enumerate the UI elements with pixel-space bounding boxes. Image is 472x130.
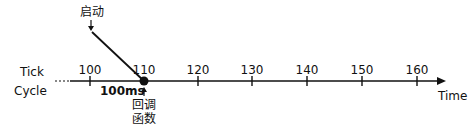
- tick-label: 140: [296, 63, 319, 77]
- callback-label-line2: 函数: [132, 111, 156, 126]
- start-label: 启动: [80, 5, 104, 19]
- tick-label: 150: [351, 63, 374, 77]
- axis-arrowhead-icon: [437, 77, 446, 85]
- tick-label: 120: [187, 63, 210, 77]
- tick-label: 130: [241, 63, 264, 77]
- cycle-row-label: Cycle: [14, 84, 47, 98]
- tick-label: 100: [79, 63, 102, 77]
- timeline-diagram: Tick Cycle Time 100 110 120 130 140 150 …: [0, 0, 472, 130]
- tick-label: 110: [133, 63, 156, 77]
- callback-label-line1: 回调: [132, 98, 156, 112]
- tick-label: 160: [406, 63, 429, 77]
- tick-row-label: Tick: [19, 65, 44, 79]
- axis-label: Time: [437, 89, 467, 103]
- start-arrowhead-icon: [88, 26, 94, 31]
- interval-label: 100ms: [100, 84, 145, 98]
